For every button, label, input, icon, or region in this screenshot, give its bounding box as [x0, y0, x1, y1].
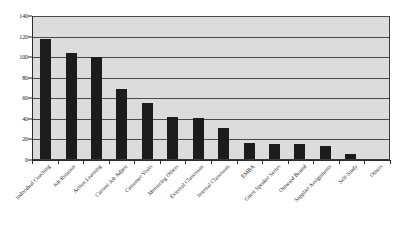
bars-container: [33, 17, 389, 159]
bar: [167, 117, 178, 159]
bar: [244, 143, 255, 159]
bar-slot: [313, 17, 338, 159]
bar: [193, 118, 204, 159]
x-axis-tick-mark: [390, 160, 391, 164]
bar: [320, 146, 331, 159]
x-axis-label: Self-Study: [337, 164, 358, 185]
bar: [91, 57, 102, 159]
bar-slot: [287, 17, 312, 159]
bar-chart: 020406080100120140 Individual CoachingJo…: [0, 0, 412, 235]
bar-slot: [160, 17, 185, 159]
bar: [294, 144, 305, 159]
x-axis-label: Job Rotation: [53, 164, 77, 188]
y-axis-tick-label: 140: [19, 13, 28, 19]
bar-slot: [109, 17, 134, 159]
x-axis-label: Individual Coaching: [15, 164, 52, 201]
x-axis-labels: Individual CoachingJob RotationAction Le…: [32, 164, 390, 234]
bar: [40, 39, 51, 159]
bar-slot: [236, 17, 261, 159]
y-axis-line: [32, 16, 33, 161]
x-axis-label: EMBA: [241, 164, 257, 180]
y-axis-tick-label: 100: [19, 54, 28, 60]
bar-slot: [338, 17, 363, 159]
bar-slot: [363, 17, 388, 159]
bar-slot: [186, 17, 211, 159]
bar-slot: [211, 17, 236, 159]
bar-slot: [84, 17, 109, 159]
bar: [142, 103, 153, 159]
bar: [218, 128, 229, 159]
x-axis-label: Others: [369, 164, 384, 179]
bar-slot: [262, 17, 287, 159]
bar: [269, 144, 280, 159]
bar: [345, 154, 356, 159]
bar-slot: [135, 17, 160, 159]
bar: [66, 53, 77, 159]
y-axis-tick-label: 120: [19, 34, 28, 40]
bar: [116, 89, 127, 159]
plot-area: [32, 16, 390, 160]
bar-slot: [33, 17, 58, 159]
bar-slot: [58, 17, 83, 159]
y-axis-ticks: 020406080100120140: [0, 16, 32, 160]
